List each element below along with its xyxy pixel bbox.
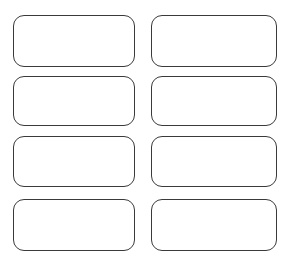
label-text	[152, 77, 276, 125]
label-text	[14, 137, 134, 186]
label-cell[interactable]	[13, 199, 135, 251]
label-text	[152, 200, 276, 250]
label-cell[interactable]	[151, 199, 277, 251]
label-template-sheet	[0, 0, 291, 264]
label-cell[interactable]	[151, 136, 277, 187]
label-text	[14, 16, 134, 66]
label-cell[interactable]	[13, 15, 135, 67]
label-text	[14, 200, 134, 250]
label-cell[interactable]	[13, 76, 135, 126]
label-cell[interactable]	[13, 136, 135, 187]
label-text	[14, 77, 134, 125]
label-cell[interactable]	[151, 15, 277, 67]
label-text	[152, 137, 276, 186]
label-cell[interactable]	[151, 76, 277, 126]
label-text	[152, 16, 276, 66]
